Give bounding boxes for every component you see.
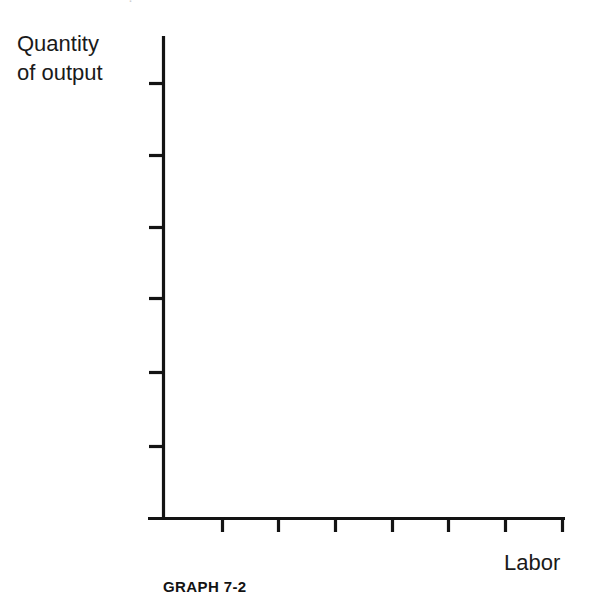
y-axis-label-line-1: Quantity <box>17 31 99 56</box>
x-axis-group <box>148 517 565 532</box>
y-axis-label: Quantityof output <box>17 29 103 87</box>
y-axis-label-line-2: of output <box>17 60 103 85</box>
plot-area[interactable] <box>166 38 564 516</box>
x-axis-label: Labor <box>504 548 560 577</box>
y-axis-group <box>149 36 165 520</box>
graph-figure: · Qu <box>0 0 602 604</box>
figure-caption: GRAPH 7-2 <box>163 578 247 595</box>
